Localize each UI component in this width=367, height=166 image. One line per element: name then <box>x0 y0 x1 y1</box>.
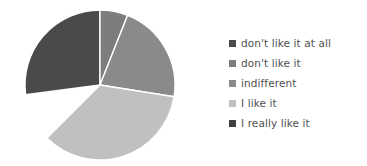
pie-svg <box>0 0 210 166</box>
legend-swatch-icon <box>229 120 236 127</box>
pie-slice[interactable] <box>25 10 100 95</box>
legend-item-label: I really like it <box>241 117 310 129</box>
legend-item[interactable]: don't like it at all <box>229 33 367 53</box>
legend-swatch-icon <box>229 100 236 107</box>
legend-item[interactable]: I like it <box>229 93 367 113</box>
legend-item-label: indifferent <box>241 77 296 89</box>
pie-chart-figure: don't like it at alldon't like itindiffe… <box>0 0 367 166</box>
legend-swatch-icon <box>229 80 236 87</box>
pie-slice-group <box>25 10 175 160</box>
legend-item[interactable]: don't like it <box>229 53 367 73</box>
chart-legend: don't like it at alldon't like itindiffe… <box>229 33 367 133</box>
legend-item-label: don't like it at all <box>241 37 331 49</box>
legend-item[interactable]: I really like it <box>229 113 367 133</box>
legend-item[interactable]: indifferent <box>229 73 367 93</box>
legend-swatch-icon <box>229 60 236 67</box>
legend-swatch-icon <box>229 40 236 47</box>
legend-item-label: I like it <box>241 97 277 109</box>
legend-item-label: don't like it <box>241 57 301 69</box>
pie-slice[interactable] <box>47 85 174 160</box>
pie-plot-area <box>0 0 210 166</box>
